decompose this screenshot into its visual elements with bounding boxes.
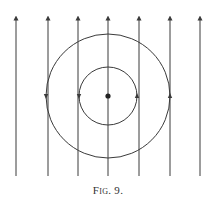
circle-arrow-down-icon: [77, 94, 81, 99]
figure-caption: Fig. 9.: [0, 184, 216, 196]
circle-arrow-up-icon: [168, 93, 172, 98]
figure-diagram: [0, 0, 216, 201]
center-dot: [105, 93, 110, 98]
